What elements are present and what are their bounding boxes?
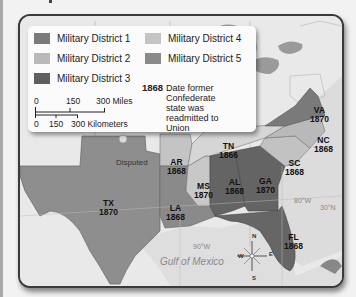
swatch-district-1 (34, 33, 50, 44)
longitude-80-label: 80°W (294, 197, 311, 204)
state-label-tn: TN1866 (219, 142, 238, 160)
date-key-year: 1868 (142, 83, 163, 93)
gulf-of-mexico-label: Gulf of Mexico (160, 256, 224, 267)
map-legend: Military District 1 Military District 2 … (28, 26, 256, 132)
state-label-va: VA1870 (310, 106, 329, 124)
latitude-30-label: 30°N (320, 204, 336, 211)
swatch-district-2 (34, 53, 50, 64)
scale-lines (35, 107, 107, 119)
disputed-label: Disputed (116, 158, 148, 167)
state-label-fl: FL1868 (284, 233, 303, 251)
legend-label: Military District 3 (57, 73, 130, 84)
scale-miles-150: 150 (66, 96, 80, 106)
legend-district-2: Military District 2 (34, 53, 130, 64)
scale-km-300: 300 Kilometers (71, 119, 128, 129)
state-label-ms: MS1870 (194, 182, 213, 200)
page-edge-bar (0, 0, 3, 297)
scale-miles-0: 0 (34, 96, 39, 106)
swatch-district-3 (34, 73, 50, 84)
swatch-district-4 (145, 33, 161, 44)
compass-e: E (269, 251, 273, 257)
legend-label: Military District 5 (168, 53, 241, 64)
legend-district-3: Military District 3 (34, 73, 130, 84)
longitude-90-label: 90°W (193, 243, 210, 250)
scale-km-150: 150 (49, 119, 63, 129)
state-label-ga: GA1870 (256, 177, 275, 195)
compass-s: S (252, 275, 256, 281)
legend-district-4: Military District 4 (145, 33, 241, 44)
legend-label: Military District 1 (57, 33, 130, 44)
scale-bar: 0 150 300 Miles 0 150 300 Kilometers (34, 96, 144, 130)
top-mark (49, 0, 52, 3)
compass-n: N (252, 233, 256, 239)
state-label-nc: NC1868 (314, 136, 333, 154)
swatch-district-5 (145, 53, 161, 64)
compass-w: W (238, 253, 244, 259)
legend-district-5: Military District 5 (145, 53, 241, 64)
state-label-ar: AR1868 (167, 158, 186, 176)
state-label-al: AL1868 (225, 178, 244, 196)
legend-label: Military District 4 (168, 33, 241, 44)
scale-km-0: 0 (34, 119, 39, 129)
state-label-sc: SC1868 (285, 159, 304, 177)
legend-district-1: Military District 1 (34, 33, 130, 44)
legend-label: Military District 2 (57, 53, 130, 64)
scale-miles-300: 300 Miles (96, 96, 132, 106)
date-key-description: Date former Confederate state was readmi… (166, 83, 236, 133)
state-label-la: LA1868 (166, 204, 185, 222)
state-label-tx: TX1870 (99, 199, 118, 217)
